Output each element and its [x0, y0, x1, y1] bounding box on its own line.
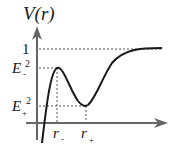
svg-text:E: E	[11, 60, 21, 76]
svg-text:r: r	[53, 125, 59, 141]
svg-text:r: r	[81, 125, 87, 141]
potential-diagram: V(r) 1 E - 2 E + 2 r - r +	[0, 0, 178, 153]
svg-text:-: -	[23, 69, 26, 79]
svg-text:2: 2	[25, 58, 30, 69]
tick-label-e-minus-squared: E - 2	[11, 58, 30, 79]
tick-label-one: 1	[22, 41, 30, 57]
axes	[26, 26, 168, 140]
svg-text:-: -	[61, 134, 64, 144]
tick-label-r-plus: r +	[81, 125, 94, 145]
svg-text:+: +	[89, 135, 94, 145]
svg-text:+: +	[22, 108, 27, 118]
potential-curve	[42, 48, 162, 143]
tick-label-r-minus: r -	[53, 125, 64, 144]
svg-text:2: 2	[26, 95, 31, 106]
svg-text:E: E	[11, 98, 21, 114]
y-axis-title: V(r)	[23, 3, 55, 25]
tick-label-e-plus-squared: E + 2	[11, 95, 31, 118]
